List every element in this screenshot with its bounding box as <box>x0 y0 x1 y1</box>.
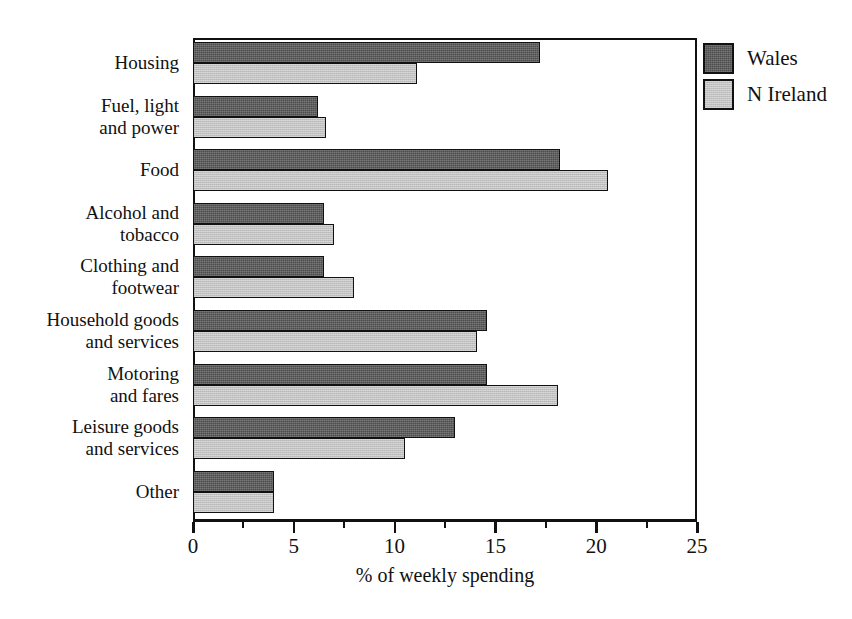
legend-item: N Ireland <box>703 76 827 112</box>
bar-group <box>193 417 697 461</box>
legend-swatch-nireland <box>703 79 734 110</box>
x-tick-major <box>696 522 699 533</box>
category-axis-labels: HousingFuel, lightand powerFoodAlcohol a… <box>0 38 186 520</box>
category-label-line: Motoring <box>0 363 179 385</box>
x-tick-label: 20 <box>586 534 607 558</box>
x-tick-label: 10 <box>384 534 405 558</box>
category-label-line: Clothing and <box>0 255 179 277</box>
category-label: Leisure goodsand services <box>0 416 186 460</box>
category-label: Motoringand fares <box>0 363 186 407</box>
x-tick-major <box>293 522 296 533</box>
bar-n-ireland <box>193 170 608 191</box>
category-label-line: Housing <box>0 52 179 74</box>
category-label-line: tobacco <box>0 224 179 246</box>
bar-group <box>193 310 697 354</box>
category-label: Clothing andfootwear <box>0 255 186 299</box>
x-tick-minor <box>646 522 648 528</box>
bar-wales <box>193 310 487 331</box>
bar-group <box>193 203 697 247</box>
bar-n-ireland <box>193 438 405 459</box>
category-label-line: footwear <box>0 277 179 299</box>
bar-group <box>193 364 697 408</box>
bar-wales <box>193 256 324 277</box>
bar-wales <box>193 149 560 170</box>
category-label-line: and services <box>0 438 179 460</box>
x-tick-minor <box>444 522 446 528</box>
bar-n-ireland <box>193 63 417 84</box>
bar-wales <box>193 471 274 492</box>
category-label-line: Leisure goods <box>0 416 179 438</box>
bar-group <box>193 471 697 515</box>
x-tick-label: 0 <box>188 534 199 558</box>
bar-n-ireland <box>193 331 477 352</box>
bar-wales <box>193 203 324 224</box>
bar-wales <box>193 42 540 63</box>
bar-n-ireland <box>193 385 558 406</box>
x-tick-major <box>494 522 497 533</box>
legend-swatch-wales <box>703 43 734 74</box>
category-label: Housing <box>0 52 186 74</box>
x-tick-label: 25 <box>687 534 708 558</box>
category-label-line: Alcohol and <box>0 202 179 224</box>
legend-item: Wales <box>703 40 827 76</box>
category-label-line: and services <box>0 331 179 353</box>
chart-page: HousingFuel, lightand powerFoodAlcohol a… <box>0 0 852 619</box>
bar-group <box>193 256 697 300</box>
chart-legend: WalesN Ireland <box>703 40 827 112</box>
bar-group <box>193 42 697 86</box>
x-tick-minor <box>545 522 547 528</box>
category-label-line: and power <box>0 117 179 139</box>
bar-n-ireland <box>193 117 326 138</box>
category-label: Other <box>0 481 186 503</box>
bar-wales <box>193 417 455 438</box>
bar-wales <box>193 364 487 385</box>
x-tick-minor <box>343 522 345 528</box>
x-tick-label: 5 <box>289 534 300 558</box>
category-label: Household goodsand services <box>0 309 186 353</box>
bar-n-ireland <box>193 224 334 245</box>
category-label-line: Food <box>0 159 179 181</box>
category-label: Alcohol andtobacco <box>0 202 186 246</box>
legend-label: N Ireland <box>747 82 827 107</box>
legend-label: Wales <box>747 46 798 71</box>
bar-group <box>193 96 697 140</box>
bar-n-ireland <box>193 492 274 513</box>
x-tick-major <box>394 522 397 533</box>
bars-plot-area <box>193 38 697 520</box>
category-label: Food <box>0 159 186 181</box>
bar-wales <box>193 96 318 117</box>
category-label-line: Other <box>0 481 179 503</box>
x-axis-title: % of weekly spending <box>193 564 697 587</box>
x-tick-major <box>192 522 195 533</box>
bar-group <box>193 149 697 193</box>
category-label: Fuel, lightand power <box>0 95 186 139</box>
category-label-line: Household goods <box>0 309 179 331</box>
category-label-line: and fares <box>0 385 179 407</box>
bar-n-ireland <box>193 277 354 298</box>
x-tick-minor <box>242 522 244 528</box>
x-tick-major <box>595 522 598 533</box>
category-label-line: Fuel, light <box>0 95 179 117</box>
x-tick-label: 15 <box>485 534 506 558</box>
